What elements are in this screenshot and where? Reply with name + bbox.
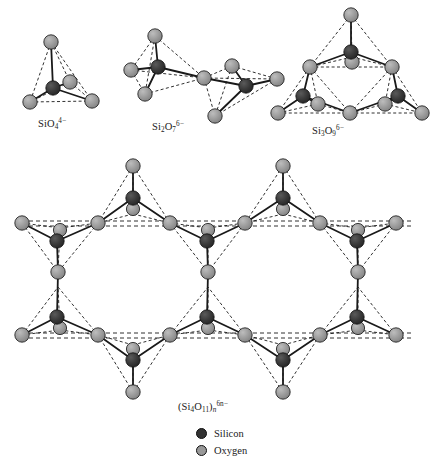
oxygen-atom	[270, 72, 284, 86]
silicon-atom	[151, 60, 165, 74]
bridging-oxygen-atom	[385, 60, 399, 74]
oxygen-swatch-icon	[196, 445, 207, 456]
bridging-oxygen-atom	[303, 60, 317, 74]
oxygen-atom	[15, 328, 29, 342]
oxygen-atom	[63, 75, 77, 89]
bridging-oxygen-atom	[351, 265, 365, 279]
formula-label-si4o11-chain: (Si4O11)n6n−	[178, 401, 228, 412]
silicon-atom	[391, 89, 405, 103]
bridging-oxygen-atom	[343, 106, 357, 120]
bridging-oxygen-atom	[238, 328, 252, 342]
oxygen-atom	[15, 216, 29, 230]
oxygen-atom	[208, 109, 222, 123]
formula-label-sio4: SiO44−	[38, 118, 66, 129]
silicon-atom	[350, 234, 364, 248]
oxygen-atom	[23, 95, 37, 109]
legend: Silicon Oxygen	[196, 426, 247, 457]
sio4-dashed-edges	[30, 42, 92, 102]
chain-atoms	[15, 159, 403, 399]
silicon-atom	[296, 89, 310, 103]
silicon-atom	[50, 234, 64, 248]
legend-label-oxygen: Oxygen	[214, 445, 247, 456]
sio4-atoms	[23, 35, 99, 109]
oxygen-atom	[44, 35, 58, 49]
bridging-oxygen-atom	[163, 328, 177, 342]
bridging-oxygen-atom	[51, 265, 65, 279]
oxygen-atom	[276, 385, 290, 399]
silicon-atom	[200, 234, 214, 248]
silicate-structures-figure: SiO44− Si2O76− Si3O96− (Si4O11)n6n− Sili…	[0, 0, 432, 467]
structures-drawing	[0, 0, 432, 467]
oxygen-atom	[311, 97, 325, 111]
silicon-atom	[344, 45, 358, 59]
bridging-oxygen-atom	[163, 216, 177, 230]
bridging-oxygen-atom	[91, 216, 105, 230]
structure-si4o11-chain	[15, 159, 412, 399]
silicon-atom	[276, 353, 290, 367]
oxygen-atom	[148, 29, 162, 43]
silicon-atom	[200, 310, 214, 324]
oxygen-atom	[344, 8, 358, 22]
silicon-atom	[239, 79, 253, 93]
bridging-oxygen-atom	[313, 216, 327, 230]
bridging-oxygen-atom	[238, 216, 252, 230]
bridging-oxygen-atom	[313, 328, 327, 342]
legend-item-silicon: Silicon	[196, 426, 247, 440]
oxygen-atom	[138, 87, 152, 101]
si3o9-atoms	[271, 8, 429, 120]
oxygen-atom	[126, 159, 140, 173]
bridging-oxygen-atom	[91, 328, 105, 342]
silicon-atom	[276, 191, 290, 205]
silicon-atom	[350, 310, 364, 324]
oxygen-atom	[126, 385, 140, 399]
oxygen-atom	[415, 106, 429, 120]
legend-label-silicon: Silicon	[214, 428, 244, 439]
oxygen-atom	[225, 59, 239, 73]
silicon-atom	[126, 353, 140, 367]
silicon-atom	[46, 81, 60, 95]
oxygen-atom	[389, 216, 403, 230]
oxygen-atom	[389, 328, 403, 342]
silicon-swatch-icon	[196, 428, 207, 439]
structure-sio4	[23, 35, 99, 109]
oxygen-atom	[124, 63, 138, 77]
oxygen-atom	[271, 106, 285, 120]
oxygen-atom	[378, 97, 392, 111]
formula-label-si3o9: Si3O96−	[312, 125, 344, 136]
legend-item-oxygen: Oxygen	[196, 443, 247, 457]
silicon-atom	[126, 191, 140, 205]
oxygen-atom	[85, 94, 99, 108]
structure-si2o7	[124, 29, 284, 123]
formula-label-si2o7: Si2O76−	[152, 121, 184, 132]
silicon-atom	[50, 310, 64, 324]
bridging-oxygen-atom	[201, 265, 215, 279]
bridging-oxygen-atom	[197, 71, 211, 85]
structure-si3o9	[271, 8, 429, 120]
oxygen-atom	[276, 159, 290, 173]
